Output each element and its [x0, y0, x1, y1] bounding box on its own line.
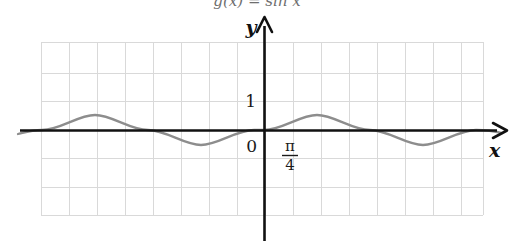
y-axis-label: y — [244, 16, 258, 38]
x-tick-label-pi-over-4: π 4 — [282, 137, 298, 174]
origin-label: 0 — [246, 136, 257, 156]
x-axis-label: x — [488, 139, 501, 161]
grid-vertical-lines — [42, 42, 484, 215]
sine-plot-svg: g(x) = sin x — [0, 0, 515, 245]
grid — [41, 42, 484, 216]
y-axis: y — [244, 16, 272, 241]
graph-figure: g(x) = sin x — [0, 0, 515, 245]
four-denominator: 4 — [285, 156, 295, 174]
pi-numerator: π — [285, 137, 295, 155]
title-fragment: g(x) = sin x — [213, 0, 301, 10]
y-tick-label-one: 1 — [245, 91, 256, 111]
